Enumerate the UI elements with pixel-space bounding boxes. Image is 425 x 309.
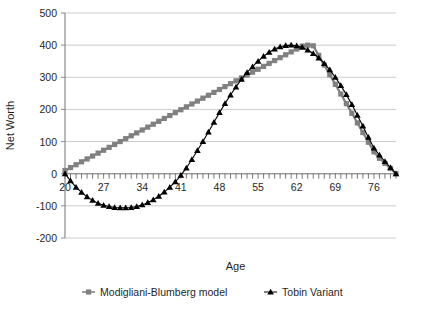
- data-point-marker: [184, 104, 189, 109]
- data-point-marker: [355, 120, 360, 125]
- data-point-marker: [79, 159, 84, 164]
- data-point-marker: [283, 52, 288, 57]
- data-point-marker: [90, 153, 95, 158]
- data-point-marker: [173, 110, 178, 115]
- data-point-marker: [349, 101, 356, 107]
- data-point-marker: [267, 61, 272, 66]
- data-point-marker: [89, 197, 96, 203]
- data-point-marker: [311, 43, 316, 48]
- data-point-marker: [255, 67, 260, 72]
- data-point-marker: [140, 127, 145, 132]
- data-point-marker: [343, 91, 350, 97]
- data-point-marker: [206, 93, 211, 98]
- y-tick-label: 400: [39, 39, 57, 51]
- data-point-marker: [289, 49, 294, 54]
- data-point-marker: [95, 200, 102, 206]
- data-point-marker: [222, 84, 227, 89]
- x-tick-label: 76: [368, 181, 380, 193]
- data-point-marker: [68, 165, 73, 170]
- x-tick-label: 62: [291, 181, 303, 193]
- x-tick-label: 69: [329, 181, 341, 193]
- data-point-marker: [211, 90, 216, 95]
- data-point-marker: [101, 148, 106, 153]
- data-point-marker: [189, 101, 194, 106]
- x-axis: 202734414855626976: [59, 174, 396, 193]
- data-point-marker: [278, 55, 283, 60]
- series-tobin-variant: [62, 42, 400, 210]
- data-point-marker: [200, 138, 207, 144]
- chart-legend[interactable]: Modigliani-Blumberg modelTobin Variant: [82, 286, 343, 298]
- data-point-marker: [272, 58, 277, 63]
- y-tick-label: -100: [36, 200, 57, 212]
- data-series: [62, 42, 400, 210]
- data-point-marker: [162, 116, 167, 121]
- data-point-marker: [151, 122, 156, 127]
- data-point-marker: [183, 165, 190, 171]
- data-point-marker: [123, 136, 128, 141]
- data-point-marker: [195, 98, 200, 103]
- data-point-marker: [333, 82, 338, 87]
- legend-label: Modigliani-Blumberg model: [100, 286, 227, 298]
- data-point-marker: [145, 125, 150, 130]
- x-tick-label: 55: [252, 181, 264, 193]
- axis-labels: Net WorthAge: [4, 101, 245, 272]
- data-point-marker: [354, 112, 361, 118]
- data-point-marker: [178, 107, 183, 112]
- data-point-marker: [194, 147, 201, 153]
- data-point-marker: [96, 151, 101, 156]
- data-point-marker: [360, 123, 367, 129]
- legend-label: Tobin Variant: [282, 286, 343, 298]
- data-point-marker: [84, 156, 89, 161]
- data-point-marker: [233, 78, 238, 83]
- data-point-marker: [266, 49, 273, 55]
- chart-container: 5004003002001000-100-200 202734414855626…: [0, 0, 425, 309]
- data-point-marker: [118, 139, 123, 144]
- y-tick-label: 200: [39, 103, 57, 115]
- data-point-marker: [338, 91, 343, 96]
- data-point-marker: [189, 156, 196, 162]
- y-tick-label: 500: [39, 7, 57, 19]
- legend-item-tobin-variant[interactable]: Tobin Variant: [264, 286, 343, 298]
- y-tick-label: -200: [36, 232, 57, 244]
- data-point-marker: [222, 100, 229, 106]
- y-axis-title: Net Worth: [4, 101, 16, 150]
- y-axis: 5004003002001000-100-200: [36, 7, 65, 244]
- data-point-marker: [344, 101, 349, 106]
- x-tick-label: 27: [98, 181, 110, 193]
- data-point-marker: [216, 109, 223, 115]
- data-point-marker: [129, 133, 134, 138]
- data-point-marker: [261, 64, 266, 69]
- y-tick-label: 0: [51, 168, 57, 180]
- data-point-marker: [349, 111, 354, 116]
- y-tick-label: 300: [39, 71, 57, 83]
- data-point-marker: [156, 119, 161, 124]
- data-point-marker: [205, 129, 212, 135]
- x-tick-label: 34: [136, 181, 148, 193]
- data-point-marker: [217, 87, 222, 92]
- data-point-marker: [73, 162, 78, 167]
- data-point-marker: [150, 196, 157, 202]
- series-line: [65, 45, 396, 208]
- data-point-marker: [144, 199, 151, 205]
- data-point-marker: [211, 119, 218, 125]
- y-tick-label: 100: [39, 136, 57, 148]
- x-tick-label: 48: [214, 181, 226, 193]
- legend-item-modigliani-blumberg[interactable]: Modigliani-Blumberg model: [82, 286, 227, 298]
- x-axis-title: Age: [226, 260, 246, 272]
- data-point-marker: [86, 289, 91, 294]
- data-point-marker: [167, 113, 172, 118]
- data-point-marker: [112, 142, 117, 147]
- data-point-marker: [338, 82, 345, 88]
- data-point-marker: [134, 130, 139, 135]
- net-worth-line-chart: 5004003002001000-100-200 202734414855626…: [0, 0, 425, 309]
- data-point-marker: [107, 145, 112, 150]
- data-point-marker: [228, 81, 233, 86]
- data-point-marker: [200, 96, 205, 101]
- data-point-marker: [250, 70, 255, 75]
